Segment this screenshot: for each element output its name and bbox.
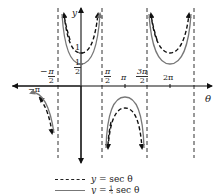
sec-branch-lower-middle-left-arrow <box>108 122 111 148</box>
legend-item-sec: y = sec θ <box>55 174 215 185</box>
x-axis-label: θ <box>205 94 211 104</box>
legend-label-sec: y = sec θ <box>91 174 133 184</box>
secant-graph <box>0 0 221 194</box>
tick-label-pi: π <box>121 74 126 82</box>
legend-swatch-dashed <box>55 179 85 180</box>
tick-label-neg-pi-half: −π2 <box>40 67 55 85</box>
tick-label-two-pi: 2π <box>163 74 173 82</box>
sec-branch-right <box>151 14 189 53</box>
legend: y = sec θ y = 12 sec θ <box>55 174 215 194</box>
sec-branch-lower-middle <box>108 108 142 148</box>
legend-item-half-sec: y = 12 sec θ <box>55 185 215 194</box>
tick-label-three-pi-half: 3π2 <box>136 67 148 85</box>
tick-label-half: 12 <box>74 58 81 76</box>
tick-label-neg-pi: −π <box>28 86 40 94</box>
tick-label-one: 1 <box>75 44 80 52</box>
legend-swatch-solid <box>55 190 85 191</box>
half-sec-branch-right <box>149 14 191 64</box>
y-axis-label: y <box>72 9 77 18</box>
asymptotes <box>58 8 194 158</box>
half-sec-branch-lower-left <box>31 92 54 133</box>
tick-label-pi-half: π2 <box>104 67 111 85</box>
legend-label-half-sec: y = 12 sec θ <box>91 185 139 194</box>
